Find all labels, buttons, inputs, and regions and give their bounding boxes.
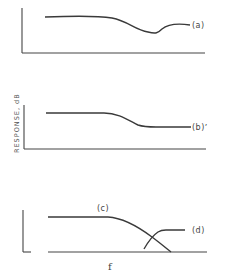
x-axis-label: f [108,261,113,272]
panel-b: (b)ʼ [24,105,208,149]
label-c: (c) [97,204,109,213]
response-figure: (a) (b)ʼ RESPONSE, dB (c) (d) f [0,0,228,280]
label-b: (b)ʼ [192,123,208,132]
curve-a [45,16,190,33]
y-axis-label: RESPONSE, dB [13,93,21,153]
curve-c [48,217,171,252]
curve-b [46,113,191,127]
label-a: (a) [192,21,205,30]
panel-cd: (c) (d) f [23,204,207,272]
panel-a: (a) [22,8,205,53]
label-d: (d) [192,226,205,235]
